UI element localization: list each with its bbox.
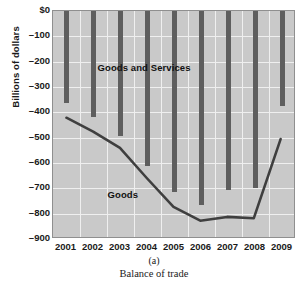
x-tick-label: 2009 — [267, 241, 297, 252]
y-axis-tick-labels: $0–100–200–300–400–500–600–700–800–900 — [10, 10, 50, 238]
figure-caption: (a) Balance of trade — [0, 255, 308, 280]
y-tick-label: –300 — [10, 81, 50, 90]
y-tick-label: –900 — [10, 233, 50, 242]
y-tick-label: –500 — [10, 132, 50, 141]
y-tick-label: –400 — [10, 106, 50, 115]
caption-text: Balance of trade — [0, 267, 308, 280]
plot-area: Goods and Services Goods — [52, 10, 295, 238]
x-tick-label: 2004 — [132, 241, 162, 252]
y-tick-label: –800 — [10, 208, 50, 217]
line-series-goods — [53, 11, 294, 237]
x-tick-label: 2002 — [78, 241, 108, 252]
x-tick-label: 2001 — [51, 241, 81, 252]
y-tick-label: –700 — [10, 182, 50, 191]
caption-number: (a) — [0, 255, 308, 267]
y-tick-label: –200 — [10, 56, 50, 65]
bars-annotation-label: Goods and Services — [98, 62, 191, 73]
y-tick-label: –100 — [10, 30, 50, 39]
x-tick-label: 2007 — [213, 241, 243, 252]
x-axis-tick-labels: 200120022003200420052006200720082009 — [52, 241, 295, 255]
balance-of-trade-figure: Billions of dollars $0–100–200–300–400–5… — [0, 0, 308, 284]
line-annotation-label: Goods — [108, 189, 139, 200]
x-tick-label: 2006 — [186, 241, 216, 252]
x-tick-label: 2003 — [105, 241, 135, 252]
y-tick-label: –600 — [10, 157, 50, 166]
x-tick-label: 2005 — [159, 241, 189, 252]
y-tick-label: $0 — [10, 5, 50, 14]
x-tick-label: 2008 — [240, 241, 270, 252]
